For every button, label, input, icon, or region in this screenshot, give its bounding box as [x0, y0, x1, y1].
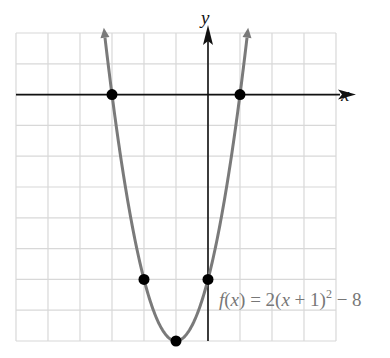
x-axis-label: x	[340, 84, 350, 105]
point-vertex	[171, 336, 182, 347]
y-axis-label: y	[199, 7, 210, 28]
parabola-chart: y x f(x) = 2(x + 1)2 − 8	[0, 0, 390, 358]
point-x-intercept	[235, 89, 246, 100]
point-point	[139, 274, 150, 285]
point-y-intercept	[203, 274, 214, 285]
point-x-intercept	[107, 89, 118, 100]
function-label: f(x) = 2(x + 1)2 − 8	[219, 287, 362, 311]
